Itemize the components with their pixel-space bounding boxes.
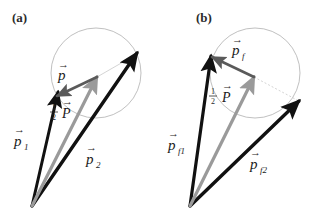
p1-letter: p — [13, 133, 22, 149]
label-pf-relative: → p f — [231, 33, 246, 61]
vector-p2 — [32, 53, 137, 206]
half-P-b-letter: P — [221, 90, 231, 105]
half-P-a-letter: P — [61, 106, 71, 121]
label-pf1: → p f1 — [167, 127, 185, 156]
label-pf2: → p f2 — [249, 146, 268, 175]
label-p-relative: → p — [57, 58, 69, 83]
vector-pf-relative — [212, 57, 254, 77]
panel-a-label: (a) — [12, 10, 27, 25]
p-relative-letter: p — [57, 67, 66, 83]
p1-subscript: 1 — [24, 142, 29, 152]
vector-diagram-figure: (a) → p 1 2 → P → p 1 → — [0, 0, 320, 223]
half-P-b-denominator: 2 — [211, 97, 215, 106]
panel-a: (a) → p 1 2 → P → p 1 → — [12, 10, 141, 206]
pf1-subscript: f1 — [178, 146, 185, 156]
label-p2: → p 2 — [85, 141, 101, 170]
pf2-letter: p — [249, 156, 258, 172]
diagram-canvas: (a) → p 1 2 → P → p 1 → — [0, 0, 320, 223]
p2-letter: p — [85, 151, 94, 167]
half-P-a-denominator: 2 — [52, 113, 56, 122]
half-P-a-numerator: 1 — [52, 103, 56, 112]
panel-b: (b) → p f 1 2 → P → p f1 — [167, 10, 300, 206]
panel-a-thin-connector — [97, 54, 137, 77]
panel-b-thin-connector — [254, 77, 297, 100]
label-p1: → p 1 — [13, 123, 29, 152]
panel-b-label: (b) — [196, 10, 212, 25]
pf1-letter: p — [167, 137, 176, 153]
pf-relative-subscript: f — [242, 51, 246, 61]
p2-subscript: 2 — [96, 160, 101, 170]
half-P-b-numerator: 1 — [211, 87, 215, 96]
pf2-subscript: f2 — [260, 165, 268, 175]
pf-relative-letter: p — [231, 42, 240, 58]
label-half-P-a: 1 2 → P — [50, 95, 73, 122]
